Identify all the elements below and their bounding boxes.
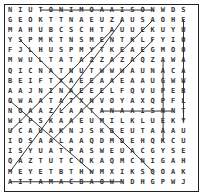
letter-cell[interactable]: T	[25, 177, 35, 187]
letter-cell[interactable]: A	[148, 15, 158, 25]
letter-cell[interactable]: I	[117, 167, 127, 177]
letter-cell[interactable]: U	[148, 86, 158, 96]
letter-cell[interactable]: E	[107, 146, 117, 156]
letter-cell[interactable]: I	[15, 66, 25, 76]
letter-cell[interactable]: Y	[158, 35, 168, 45]
letter-cell[interactable]: L	[137, 35, 147, 45]
letter-cell[interactable]: T	[36, 156, 46, 166]
letter-cell[interactable]: E	[137, 45, 147, 55]
letter-cell[interactable]: A	[25, 126, 35, 136]
letter-cell[interactable]: V	[97, 96, 107, 106]
letter-cell[interactable]: A	[5, 177, 15, 187]
letter-cell[interactable]: A	[87, 177, 97, 187]
letter-cell[interactable]: M	[46, 177, 56, 187]
letter-cell[interactable]: M	[5, 55, 15, 65]
letter-cell[interactable]: T	[46, 96, 56, 106]
letter-cell[interactable]: U	[117, 25, 127, 35]
letter-cell[interactable]: X	[56, 76, 66, 86]
letter-cell[interactable]: Q	[137, 55, 147, 65]
letter-cell[interactable]: E	[15, 15, 25, 25]
letter-cell[interactable]: O	[107, 96, 117, 106]
letter-cell[interactable]: P	[66, 146, 76, 156]
letter-cell[interactable]: W	[158, 5, 168, 15]
letter-cell[interactable]: A	[117, 15, 127, 25]
letter-cell[interactable]: E	[137, 25, 147, 35]
letter-cell[interactable]: U	[36, 126, 46, 136]
letter-cell[interactable]: Q	[148, 96, 158, 106]
letter-cell[interactable]: M	[158, 45, 168, 55]
letter-cell[interactable]: C	[15, 126, 25, 136]
letter-cell[interactable]: F	[117, 86, 127, 96]
letter-cell[interactable]: O	[25, 15, 35, 25]
letter-cell[interactable]: U	[97, 15, 107, 25]
letter-cell[interactable]: K	[56, 126, 66, 136]
letter-cell[interactable]: X	[137, 96, 147, 106]
letter-cell[interactable]: V	[137, 86, 147, 96]
letter-cell[interactable]: A	[5, 86, 15, 96]
letter-cell[interactable]: E	[76, 86, 86, 96]
letter-cell[interactable]: Q	[127, 86, 137, 96]
letter-cell[interactable]: P	[25, 116, 35, 126]
letter-cell[interactable]: U	[148, 116, 158, 126]
letter-cell[interactable]: M	[36, 35, 46, 45]
letter-cell[interactable]: M	[107, 136, 117, 146]
letter-cell[interactable]: J	[178, 177, 188, 187]
letter-cell[interactable]: A	[46, 136, 56, 146]
letter-cell[interactable]: U	[158, 25, 168, 35]
letter-cell[interactable]: A	[56, 96, 66, 106]
letter-cell[interactable]: I	[15, 177, 25, 187]
letter-cell[interactable]: A	[127, 96, 137, 106]
letter-cell[interactable]: S	[76, 35, 86, 45]
letter-cell[interactable]: Q	[107, 156, 117, 166]
letter-cell[interactable]: Y	[87, 45, 97, 55]
letter-cell[interactable]: T	[66, 55, 76, 65]
letter-cell[interactable]: T	[56, 146, 66, 156]
letter-cell[interactable]: S	[137, 167, 147, 177]
letter-cell[interactable]: O	[168, 45, 178, 55]
letter-cell[interactable]: Y	[25, 146, 35, 156]
letter-cell[interactable]: W	[117, 66, 127, 76]
letter-cell[interactable]: C	[56, 25, 66, 35]
letter-cell[interactable]: A	[76, 55, 86, 65]
letter-cell[interactable]: Y	[25, 167, 35, 177]
letter-cell[interactable]: C	[66, 177, 76, 187]
letter-cell[interactable]: G	[148, 177, 158, 187]
letter-cell[interactable]: C	[25, 66, 35, 76]
letter-cell[interactable]: M	[117, 156, 127, 166]
letter-cell[interactable]: E	[97, 35, 107, 45]
letter-cell[interactable]: C	[168, 66, 178, 76]
letter-cell[interactable]: H	[137, 136, 147, 146]
letter-cell[interactable]: A	[107, 76, 117, 86]
letter-cell[interactable]: A	[46, 146, 56, 156]
letter-cell[interactable]: A	[178, 66, 188, 76]
letter-cell[interactable]: K	[127, 35, 137, 45]
letter-cell[interactable]: S	[15, 146, 25, 156]
letter-cell[interactable]: A	[97, 156, 107, 166]
letter-cell[interactable]: A	[66, 76, 76, 86]
letter-cell[interactable]: I	[15, 5, 25, 15]
letter-cell[interactable]: U	[178, 126, 188, 136]
letter-cell[interactable]: U	[148, 76, 158, 86]
letter-cell[interactable]: O	[178, 45, 188, 55]
letter-cell[interactable]: E	[127, 136, 137, 146]
letter-cell[interactable]: E	[76, 116, 86, 126]
letter-cell[interactable]: A	[127, 55, 137, 65]
letter-cell[interactable]: A	[76, 136, 86, 146]
letter-cell[interactable]: U	[137, 66, 147, 76]
letter-cell[interactable]: S	[66, 25, 76, 35]
letter-cell[interactable]: U	[25, 5, 35, 15]
letter-cell[interactable]: Q	[76, 156, 86, 166]
letter-cell[interactable]: Q	[148, 136, 158, 146]
letter-cell[interactable]: U	[5, 126, 15, 136]
letter-cell[interactable]: A	[66, 86, 76, 96]
letter-cell[interactable]: N	[148, 66, 158, 76]
letter-cell[interactable]: N	[107, 35, 117, 45]
letter-cell[interactable]: N	[36, 66, 46, 76]
letter-cell[interactable]: W	[168, 177, 178, 187]
letter-cell[interactable]: Z	[25, 156, 35, 166]
letter-cell[interactable]: O	[15, 106, 25, 116]
letter-cell[interactable]: W	[15, 96, 25, 106]
letter-cell[interactable]: A	[97, 106, 107, 116]
letter-cell[interactable]: M	[97, 116, 107, 126]
letter-cell[interactable]: N	[66, 66, 76, 76]
